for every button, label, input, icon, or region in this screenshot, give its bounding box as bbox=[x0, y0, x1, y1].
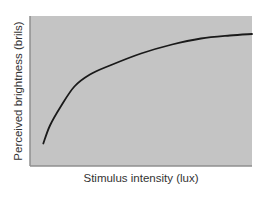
x-axis-label: Stimulus intensity (lux) bbox=[83, 172, 198, 184]
plot-area bbox=[30, 16, 252, 166]
y-axis-label: Perceived brightness (brils) bbox=[12, 21, 24, 160]
